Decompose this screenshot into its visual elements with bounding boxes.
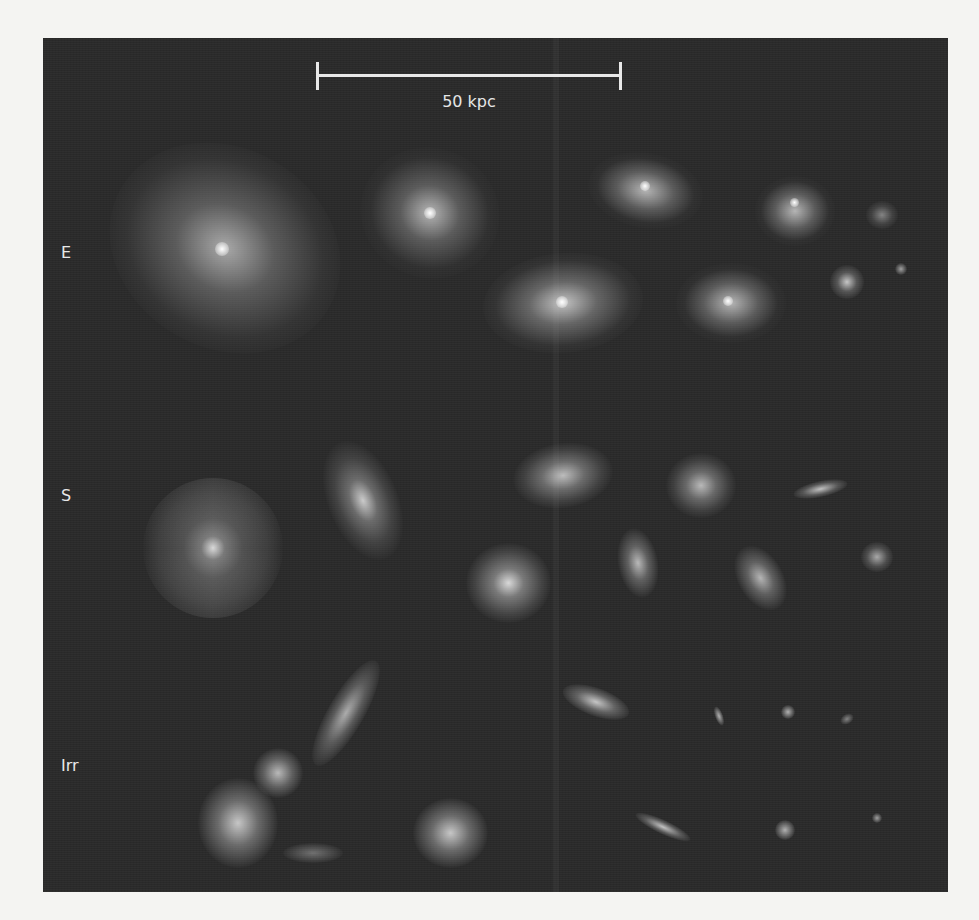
spiral-galaxy [861, 542, 893, 572]
galaxy-core [640, 181, 650, 191]
elliptical-galaxy [895, 263, 907, 275]
irregular-galaxy [283, 843, 343, 863]
irregular-galaxy [872, 813, 882, 823]
irregular-galaxy [633, 808, 693, 846]
spiral-galaxy [466, 543, 551, 623]
galaxy-image-panel: 50 kpc E S Irr [43, 38, 948, 892]
elliptical-galaxy [755, 176, 835, 246]
irregular-galaxy [775, 820, 795, 840]
irregular-galaxy [300, 652, 391, 774]
irregular-galaxy [253, 748, 303, 798]
row-label-spiral: S [61, 486, 71, 505]
scale-bar-right-tick [619, 62, 622, 90]
scale-bar-label: 50 kpc [316, 92, 622, 111]
row-label-irregular: Irr [61, 756, 79, 775]
scale-bar-line [316, 74, 622, 77]
galaxy-core [424, 207, 436, 219]
elliptical-galaxy [866, 201, 898, 229]
spiral-galaxy [307, 429, 419, 571]
spiral-galaxy [612, 525, 664, 601]
scale-bar: 50 kpc [316, 62, 622, 122]
spiral-galaxy [666, 453, 736, 518]
galaxy-core [723, 296, 733, 306]
spiral-galaxy [792, 475, 849, 502]
row-label-elliptical: E [61, 243, 71, 262]
irregular-galaxy [781, 705, 795, 719]
irregular-galaxy [712, 705, 726, 727]
spiral-galaxy [509, 436, 617, 514]
galaxy-core [790, 198, 799, 207]
irregular-galaxy [838, 711, 855, 727]
galaxy-core [556, 296, 568, 308]
irregular-galaxy [413, 798, 488, 868]
elliptical-galaxy [830, 265, 864, 299]
irregular-galaxy [558, 677, 633, 727]
galaxy-core [215, 242, 229, 256]
spiral-galaxy [724, 536, 798, 619]
spiral-galaxy [143, 478, 283, 618]
